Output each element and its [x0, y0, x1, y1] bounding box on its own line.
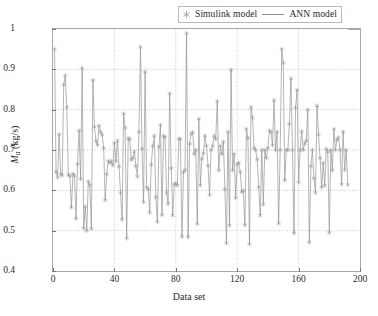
x-tick-label: 40: [94, 275, 134, 285]
x-tick-mark: [114, 268, 115, 272]
x-tick-label: 120: [217, 275, 257, 285]
y-tick-mark: [52, 231, 56, 232]
x-tick-label: 0: [33, 275, 73, 285]
y-tick-label: 0.4: [0, 266, 15, 276]
x-tick-mark: [360, 268, 361, 272]
ann-model-line: [55, 33, 348, 244]
y-axis-unit: (kg/s): [9, 126, 20, 152]
chart-legend: Simulink model ANN model: [178, 6, 342, 23]
x-tick-label: 80: [156, 275, 196, 285]
legend-label-ann: ANN model: [289, 10, 337, 20]
x-tick-mark: [176, 268, 177, 272]
x-axis-label: Data set: [0, 291, 378, 302]
figure: Simulink model ANN model 0.40.50.60.70.8…: [0, 0, 378, 316]
plot-area: [52, 28, 361, 272]
y-axis-subscript: a: [13, 151, 22, 155]
y-tick-mark: [52, 29, 56, 30]
y-tick-label: 0.5: [0, 226, 15, 236]
x-tick-mark: [53, 268, 54, 272]
y-tick-label: 0.9: [0, 65, 15, 75]
x-tick-label: 160: [279, 275, 319, 285]
x-tick-mark: [237, 268, 238, 272]
y-tick-mark: [52, 190, 56, 191]
simulink-model-markers: [53, 29, 360, 246]
y-tick-mark: [52, 110, 56, 111]
x-tick-label: 200: [340, 275, 378, 285]
y-tick-mark: [52, 69, 56, 70]
line-sample-icon: [262, 14, 284, 15]
y-axis-label: Ma (kg/s): [9, 100, 22, 190]
star-marker-icon: [183, 10, 190, 19]
y-tick-label: 1: [0, 24, 15, 34]
chart-svg: [53, 29, 360, 271]
y-tick-mark: [52, 150, 56, 151]
y-axis-symbol: M: [9, 155, 20, 163]
plot-canvas-wrapper: [53, 29, 360, 271]
legend-label-simulink: Simulink model: [195, 10, 257, 20]
x-tick-mark: [299, 268, 300, 272]
